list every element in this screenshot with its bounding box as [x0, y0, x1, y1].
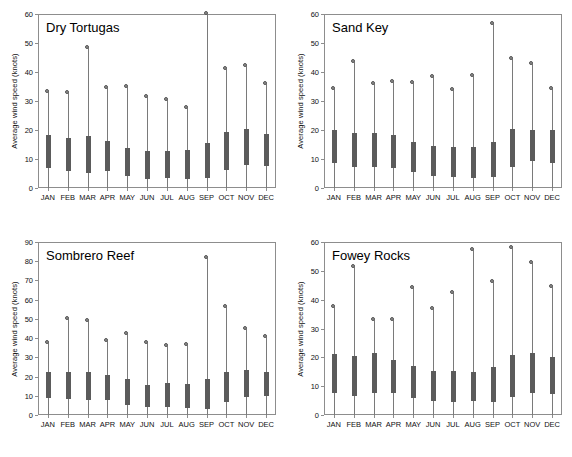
range-bar: [145, 151, 150, 179]
x-tick-mark: [246, 188, 247, 191]
range-bar: [550, 130, 555, 163]
y-tick-label: 50: [311, 266, 319, 275]
range-bar: [451, 147, 456, 177]
y-tick-label: 30: [25, 353, 33, 362]
range-bar: [125, 379, 130, 405]
x-tick-mark: [532, 188, 533, 191]
x-tick-label: AUG: [465, 193, 481, 202]
x-tick-mark: [226, 188, 227, 191]
range-bar: [332, 354, 337, 393]
y-tick-label: 40: [25, 334, 33, 343]
max-value-marker: [65, 316, 69, 320]
range-bar: [244, 370, 249, 398]
y-tick-mark: [35, 14, 38, 15]
max-value-marker: [351, 264, 355, 268]
x-tick-label: DEC: [544, 193, 560, 202]
wind-speed-figure: Average wind speed (knots)0102030405060D…: [0, 0, 572, 457]
whisker-stem: [68, 319, 69, 415]
x-tick-mark: [473, 188, 474, 191]
range-bar: [185, 150, 190, 179]
y-tick-label: 50: [25, 39, 33, 48]
x-tick-label: SEP: [199, 193, 214, 202]
range-bar: [391, 360, 396, 394]
x-tick-label: JUN: [140, 420, 155, 429]
whisker-stem: [512, 59, 513, 188]
range-bar: [352, 356, 357, 396]
max-value-marker: [450, 87, 454, 91]
max-value-marker: [430, 74, 434, 78]
plot-area: [38, 242, 276, 415]
range-bar: [431, 371, 436, 401]
max-value-marker: [263, 334, 267, 338]
y-tick-label: 30: [25, 97, 33, 106]
max-value-marker: [490, 279, 494, 283]
max-value-marker: [184, 342, 188, 346]
range-bar: [372, 353, 377, 393]
range-bar: [264, 134, 269, 166]
y-tick-label: 20: [311, 353, 319, 362]
range-bar: [224, 372, 229, 402]
whisker-stem: [88, 321, 89, 415]
x-tick-mark: [266, 188, 267, 191]
range-bar: [391, 135, 396, 168]
range-bar: [332, 130, 337, 163]
whisker-stem: [226, 69, 227, 188]
x-tick-mark: [147, 188, 148, 191]
max-value-marker: [331, 304, 335, 308]
x-tick-mark: [552, 188, 553, 191]
x-tick-mark: [207, 188, 208, 191]
x-tick-label: SEP: [485, 193, 500, 202]
y-axis-label: Average wind speed (knots): [10, 281, 19, 376]
chart-panel: Average wind speed (knots)0102030405060D…: [0, 0, 286, 228]
y-tick-mark: [321, 130, 324, 131]
y-tick-mark: [35, 396, 38, 397]
y-tick-label: 0: [29, 411, 33, 420]
max-value-marker: [45, 340, 49, 344]
x-tick-mark: [374, 188, 375, 191]
x-tick-label: OCT: [504, 420, 520, 429]
x-tick-label: JAN: [327, 193, 341, 202]
y-tick-label: 50: [311, 39, 319, 48]
whisker-stem: [246, 66, 247, 188]
max-value-marker: [204, 11, 208, 15]
y-tick-label: 0: [315, 184, 319, 193]
x-tick-mark: [453, 415, 454, 418]
x-tick-label: FEB: [346, 420, 361, 429]
x-tick-mark: [187, 188, 188, 191]
y-tick-label: 90: [25, 238, 33, 247]
x-tick-mark: [207, 415, 208, 418]
y-tick-mark: [321, 329, 324, 330]
y-tick-label: 20: [311, 126, 319, 135]
x-tick-mark: [354, 415, 355, 418]
x-tick-mark: [187, 415, 188, 418]
y-axis-label: Average wind speed (knots): [296, 281, 305, 376]
max-value-marker: [85, 45, 89, 49]
x-tick-label: NOV: [238, 193, 254, 202]
x-tick-mark: [167, 188, 168, 191]
range-bar: [205, 143, 210, 178]
range-bar: [530, 130, 535, 161]
x-tick-label: SEP: [199, 420, 214, 429]
y-tick-label: 60: [311, 10, 319, 19]
y-tick-mark: [321, 271, 324, 272]
y-tick-mark: [321, 159, 324, 160]
range-bar: [244, 129, 249, 164]
range-bar: [510, 129, 515, 168]
range-bar: [86, 372, 91, 400]
y-tick-mark: [35, 130, 38, 131]
y-tick-label: 30: [311, 324, 319, 333]
x-tick-label: NOV: [524, 193, 540, 202]
x-tick-label: SEP: [485, 420, 500, 429]
y-tick-mark: [35, 338, 38, 339]
y-tick-label: 40: [25, 68, 33, 77]
max-value-marker: [331, 86, 335, 90]
y-tick-mark: [35, 101, 38, 102]
plot-area: [324, 242, 562, 415]
y-tick-mark: [35, 357, 38, 358]
y-tick-label: 0: [29, 184, 33, 193]
x-tick-label: JAN: [41, 420, 55, 429]
y-tick-label: 10: [311, 382, 319, 391]
x-tick-label: DEC: [258, 193, 274, 202]
x-tick-mark: [147, 415, 148, 418]
y-tick-mark: [321, 43, 324, 44]
